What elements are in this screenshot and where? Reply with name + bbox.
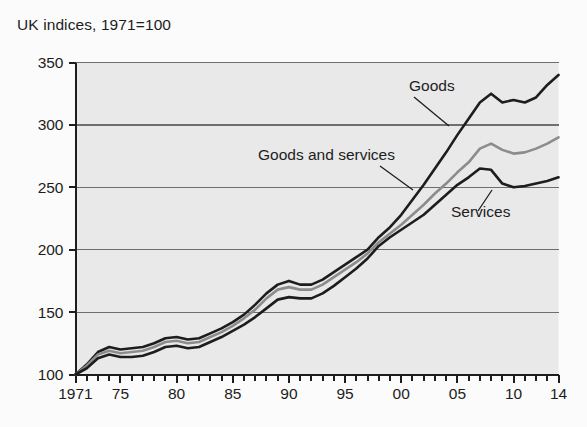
- y-tick-label-200: 200: [38, 241, 64, 258]
- y-tick-label-100: 100: [38, 366, 64, 383]
- annotation-label-goods: Goods: [409, 77, 455, 94]
- y-axis-tick-labels: 100150200250300350: [38, 54, 64, 383]
- x-tick-label-2010: 10: [505, 385, 523, 402]
- y-tick-label-250: 250: [38, 179, 64, 196]
- x-tick-label-1980: 80: [168, 385, 186, 402]
- x-tick-label-1995: 95: [336, 385, 353, 402]
- x-tick-label-1990: 90: [280, 385, 298, 402]
- x-tick-label-1971: 1971: [58, 385, 92, 402]
- annotation-label-services: Services: [451, 203, 511, 220]
- chart-figure: UK indices, 1971=100 100150200250300350 …: [0, 0, 587, 427]
- x-axis-tick-labels: 1971758085909500051014: [58, 385, 567, 402]
- x-tick-label-2014: 14: [550, 385, 568, 402]
- y-tick-label-150: 150: [38, 304, 64, 321]
- x-tick-label-1985: 85: [224, 385, 241, 402]
- x-tick-label-2005: 05: [449, 385, 466, 402]
- x-tick-label-1975: 75: [112, 385, 129, 402]
- y-tick-label-350: 350: [38, 54, 64, 71]
- y-tick-label-300: 300: [38, 116, 64, 133]
- x-tick-label-2000: 00: [393, 385, 411, 402]
- chart-plot: 100150200250300350 197175808590950005101…: [0, 0, 587, 427]
- annotation-label-goods-and-services: Goods and services: [258, 146, 395, 163]
